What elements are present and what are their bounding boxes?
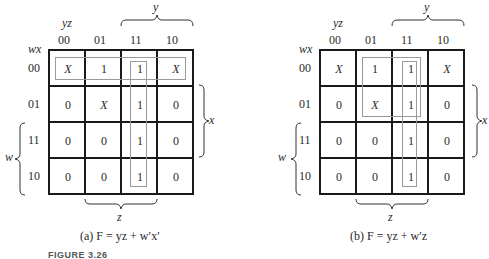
figure-label: FIGURE 3.26 (48, 250, 108, 259)
cell-dontcare: X (429, 51, 465, 87)
brace-bottom-label: z (388, 210, 393, 225)
cell-value: 0 (357, 159, 393, 195)
cell-value: 0 (429, 87, 465, 123)
col-label: 11 (401, 33, 413, 48)
brace-left-label: w (278, 150, 286, 165)
col-label: 10 (437, 33, 449, 48)
cell-value: 0 (357, 123, 393, 159)
row-variable-label: wx (299, 42, 312, 57)
group-loop-col-11 (402, 61, 417, 187)
row-label: 01 (299, 97, 311, 112)
brace-left-icon (290, 122, 302, 196)
brace-right-label: x (482, 113, 487, 128)
cell-value: 0 (321, 87, 357, 123)
cell-dontcare: X (321, 51, 357, 87)
cell-value: 0 (429, 159, 465, 195)
kmap-b: yz wx 00 01 11 10 00 01 11 10 X 1 1 X 0 … (0, 0, 489, 259)
caption-b: (b) F = yz + w′z (350, 229, 427, 244)
cell-value: 0 (321, 123, 357, 159)
cell-value: 0 (321, 159, 357, 195)
cell-value: 0 (429, 123, 465, 159)
brace-top-label: y (424, 0, 429, 15)
col-label: 00 (329, 33, 341, 48)
col-label: 01 (365, 33, 377, 48)
col-variable-label: yz (333, 16, 343, 31)
row-label: 00 (299, 61, 311, 76)
